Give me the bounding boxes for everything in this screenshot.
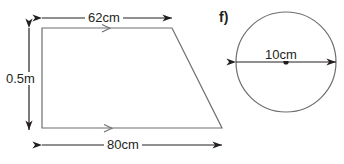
top-dimension-label: 62cm bbox=[85, 11, 123, 24]
bottom-dimension-label: 80cm bbox=[104, 138, 142, 151]
worksheet-diagram-canvas: ) f) 62cm 0.5m 80cm 10cm bbox=[0, 0, 344, 164]
diameter-dimension-label: 10cm bbox=[262, 48, 300, 61]
geometry-figures-svg bbox=[0, 0, 344, 164]
height-dimension-label: 0.5m bbox=[3, 72, 38, 85]
part-label-f: f) bbox=[219, 10, 228, 24]
trapezoid-shape bbox=[42, 28, 222, 128]
